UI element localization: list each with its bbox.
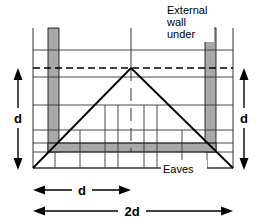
- external-wall-under-annotation: External wall under: [166, 4, 214, 42]
- right-external-wall: [205, 28, 216, 152]
- dim-d-label: d: [78, 183, 86, 198]
- external-wall-label-line3: under: [167, 28, 195, 40]
- roof-plan-svg: d d d 2d External: [0, 0, 262, 221]
- dim-right-label: d: [240, 111, 248, 126]
- roof-plan-diagram: d d d 2d External: [0, 0, 262, 221]
- external-wall-label-line1: External: [167, 4, 207, 16]
- external-wall-label-line2: wall: [166, 16, 186, 28]
- eaves-annotation: Eaves: [161, 160, 207, 176]
- eaves-label: Eaves: [163, 163, 194, 175]
- dim-left-label: d: [14, 111, 22, 126]
- dim-2d-label: 2d: [124, 204, 139, 219]
- rear-external-wall-band: [48, 143, 216, 152]
- left-external-wall: [48, 28, 59, 152]
